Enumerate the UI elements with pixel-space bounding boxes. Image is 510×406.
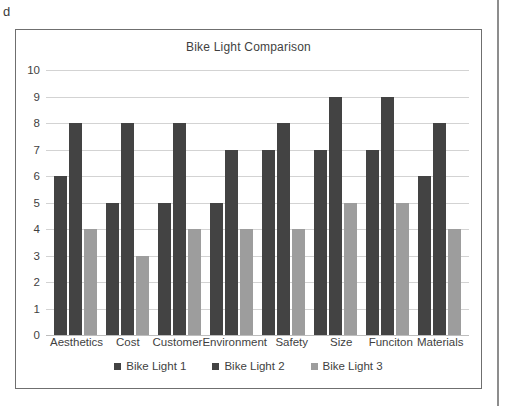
legend-swatch-icon <box>114 363 121 370</box>
bar[interactable] <box>418 176 431 335</box>
legend-label: Bike Light 3 <box>323 360 383 372</box>
bar[interactable] <box>158 203 171 336</box>
x-axis-tick-label: Size <box>316 336 366 348</box>
bar[interactable] <box>136 256 149 336</box>
x-axis-tick-label: Customer <box>153 336 203 348</box>
bar[interactable] <box>344 203 357 336</box>
bar[interactable] <box>173 123 186 335</box>
bar[interactable] <box>69 123 82 335</box>
bar-group <box>102 70 154 335</box>
bar-group <box>258 70 310 335</box>
bar[interactable] <box>188 229 201 335</box>
bar[interactable] <box>225 150 238 336</box>
y-axis-tick-label: 7 <box>34 144 40 156</box>
legend-item[interactable]: Bike Light 3 <box>311 360 383 372</box>
bar-series-layer <box>46 70 469 335</box>
bar[interactable] <box>329 97 342 336</box>
x-axis-tick-label: Safety <box>267 336 317 348</box>
bar-group <box>50 70 102 335</box>
bar[interactable] <box>121 123 134 335</box>
y-axis-tick-label: 10 <box>27 64 40 76</box>
y-axis-tick-label: 4 <box>34 223 40 235</box>
bar-group <box>361 70 413 335</box>
bar-group <box>309 70 361 335</box>
bar[interactable] <box>292 229 305 335</box>
bar[interactable] <box>396 203 409 336</box>
chart-legend: Bike Light 1Bike Light 2Bike Light 3 <box>16 360 481 372</box>
x-axis-tick-label: Aesthetics <box>50 336 103 348</box>
page-margin-text: d <box>3 4 10 20</box>
bar-group <box>154 70 206 335</box>
x-axis-tick-label: Cost <box>103 336 153 348</box>
bar[interactable] <box>433 123 446 335</box>
bar[interactable] <box>54 176 67 335</box>
bar[interactable] <box>366 150 379 336</box>
bar[interactable] <box>210 203 223 336</box>
y-axis-tick-label: 3 <box>34 250 40 262</box>
x-axis-tick-label: Materials <box>415 336 465 348</box>
y-axis-tick-label: 9 <box>34 91 40 103</box>
legend-label: Bike Light 1 <box>126 360 186 372</box>
y-axis-tick-label: 2 <box>34 276 40 288</box>
legend-label: Bike Light 2 <box>224 360 284 372</box>
legend-swatch-icon <box>212 363 219 370</box>
bar[interactable] <box>262 150 275 336</box>
x-axis-tick-label: Funciton <box>366 336 416 348</box>
legend-swatch-icon <box>311 363 318 370</box>
bar[interactable] <box>277 123 290 335</box>
bar-group <box>206 70 258 335</box>
y-axis-tick-label: 0 <box>34 329 40 341</box>
bar[interactable] <box>448 229 461 335</box>
legend-item[interactable]: Bike Light 2 <box>212 360 284 372</box>
y-axis-tick-label: 5 <box>34 197 40 209</box>
y-axis-tick-label: 1 <box>34 303 40 315</box>
bar[interactable] <box>106 203 119 336</box>
legend-item[interactable]: Bike Light 1 <box>114 360 186 372</box>
bar[interactable] <box>314 150 327 336</box>
x-axis-labels: AestheticsCostCustomerEnvironmentSafetyS… <box>46 336 469 348</box>
y-axis-tick-label: 8 <box>34 117 40 129</box>
bar[interactable] <box>84 229 97 335</box>
bar[interactable] <box>240 229 253 335</box>
page-edge-rule <box>497 0 499 406</box>
y-axis-tick-label: 6 <box>34 170 40 182</box>
x-axis-tick-label: Environment <box>202 336 267 348</box>
chart-container: Bike Light Comparison 109876543210 Aesth… <box>15 29 482 389</box>
chart-title: Bike Light Comparison <box>16 40 481 54</box>
bar[interactable] <box>381 97 394 336</box>
bar-group <box>413 70 465 335</box>
plot-area: 109876543210 <box>46 70 469 335</box>
